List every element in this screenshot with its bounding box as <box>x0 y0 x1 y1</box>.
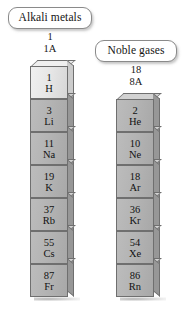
element-block[interactable]: 2He <box>116 99 154 132</box>
element-block-front-face: 18Ar <box>116 165 154 198</box>
element-symbol: Cs <box>43 248 54 259</box>
element-block[interactable]: 10Ne <box>116 132 154 165</box>
group-roman-right: 8A <box>116 76 156 88</box>
callout-noble-gases: Noble gases <box>95 40 177 62</box>
element-atomic-number: 54 <box>130 237 141 248</box>
element-atomic-number: 1 <box>46 72 51 83</box>
element-atomic-number: 55 <box>44 237 55 248</box>
element-atomic-number: 37 <box>44 204 55 215</box>
element-block-front-face: 10Ne <box>116 132 154 165</box>
callout-alkali-metals-label: Alkali metals <box>19 12 82 24</box>
element-symbol: Na <box>43 149 55 160</box>
element-block[interactable]: 11Na <box>30 132 68 165</box>
element-symbol: Kr <box>129 215 140 226</box>
element-block-side-face <box>67 258 74 297</box>
element-block[interactable]: 55Cs <box>30 231 68 264</box>
element-atomic-number: 36 <box>130 204 141 215</box>
periodic-table-groups-figure: Alkali metals Noble gases 1 1A 18 8A 1H3… <box>0 0 183 312</box>
element-symbol: Rn <box>129 281 141 292</box>
element-block-front-face: 1H <box>30 66 68 99</box>
element-block-front-face: 36Kr <box>116 198 154 231</box>
callout-alkali-metals: Alkali metals <box>8 7 92 29</box>
group-number-right: 18 <box>116 64 156 76</box>
element-symbol: Ne <box>129 149 141 160</box>
element-block[interactable]: 36Kr <box>116 198 154 231</box>
column-shadow-right <box>120 297 166 301</box>
element-atomic-number: 3 <box>46 105 51 116</box>
element-block-front-face: 19K <box>30 165 68 198</box>
group-header-left: 1 1A <box>30 31 70 55</box>
element-symbol: He <box>129 116 141 127</box>
element-block[interactable]: 3Li <box>30 99 68 132</box>
element-block[interactable]: 54Xe <box>116 231 154 264</box>
column-shadow-left <box>34 297 80 301</box>
element-atomic-number: 10 <box>130 138 141 149</box>
alkali-metals-column: 1H3Li11Na19K37Rb55Cs87Fr <box>30 66 68 297</box>
element-atomic-number: 86 <box>130 270 141 281</box>
element-block[interactable]: 87Fr <box>30 264 68 297</box>
element-symbol: Ar <box>129 182 140 193</box>
group-header-right: 18 8A <box>116 64 156 88</box>
element-block[interactable]: 19K <box>30 165 68 198</box>
element-block-front-face: 55Cs <box>30 231 68 264</box>
element-block[interactable]: 1H <box>30 66 68 99</box>
group-number-left: 1 <box>30 31 70 43</box>
element-block-front-face: 87Fr <box>30 264 68 297</box>
element-block-side-face <box>153 258 160 297</box>
noble-gases-column: 2He10Ne18Ar36Kr54Xe86Rn <box>116 99 154 297</box>
element-block-front-face: 37Rb <box>30 198 68 231</box>
element-atomic-number: 2 <box>132 105 137 116</box>
element-block-front-face: 54Xe <box>116 231 154 264</box>
element-atomic-number: 11 <box>44 138 54 149</box>
element-atomic-number: 87 <box>44 270 55 281</box>
element-block-front-face: 86Rn <box>116 264 154 297</box>
element-atomic-number: 18 <box>130 171 141 182</box>
element-symbol: Rb <box>43 215 55 226</box>
element-block[interactable]: 37Rb <box>30 198 68 231</box>
group-roman-left: 1A <box>30 43 70 55</box>
element-block-front-face: 11Na <box>30 132 68 165</box>
element-symbol: Xe <box>129 248 141 259</box>
callout-noble-gases-label: Noble gases <box>108 45 165 57</box>
element-symbol: H <box>45 83 53 94</box>
element-symbol: K <box>45 182 53 193</box>
element-block[interactable]: 86Rn <box>116 264 154 297</box>
element-atomic-number: 19 <box>44 171 55 182</box>
element-block-front-face: 3Li <box>30 99 68 132</box>
element-symbol: Li <box>44 116 53 127</box>
element-block[interactable]: 18Ar <box>116 165 154 198</box>
element-block-front-face: 2He <box>116 99 154 132</box>
element-symbol: Fr <box>44 281 53 292</box>
